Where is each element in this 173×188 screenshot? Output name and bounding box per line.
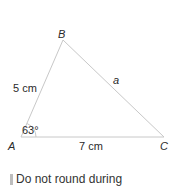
note-text: Do not round during [16, 173, 122, 185]
vertex-label-c: C [160, 141, 168, 152]
angle-label-a: 63° [22, 125, 39, 136]
note-marker-bar [10, 174, 13, 185]
vertex-label-b: B [58, 29, 65, 40]
triangle-abc [21, 40, 164, 137]
instruction-note: Do not round during [10, 173, 122, 185]
side-label-ac: 7 cm [79, 141, 103, 152]
side-label-ab: 5 cm [13, 83, 37, 94]
vertex-label-a: A [8, 141, 15, 152]
triangle-diagram [0, 0, 173, 188]
side-label-bc: a [113, 75, 119, 86]
